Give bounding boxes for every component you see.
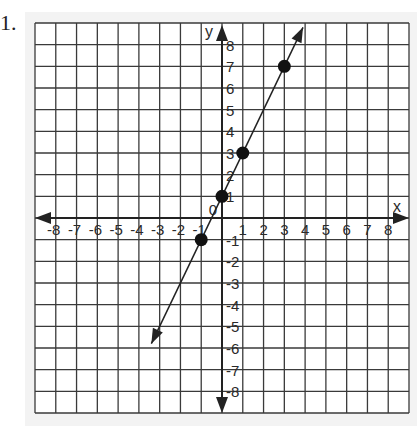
data-point bbox=[195, 233, 208, 246]
x-tick-label: 1 bbox=[239, 221, 247, 238]
y-tick-label: 3 bbox=[226, 145, 234, 162]
x-tick-label: -6 bbox=[89, 221, 102, 238]
x-tick-label: 5 bbox=[322, 221, 330, 238]
y-tick-label: 2 bbox=[226, 167, 234, 184]
data-point bbox=[236, 147, 249, 160]
x-tick-label: 4 bbox=[301, 221, 309, 238]
x-tick-label: 8 bbox=[384, 221, 392, 238]
y-tick-label: 6 bbox=[226, 80, 234, 97]
x-tick-label: 3 bbox=[280, 221, 288, 238]
x-tick-label: -7 bbox=[68, 221, 81, 238]
y-tick-label: -2 bbox=[226, 253, 239, 270]
x-tick-label: -2 bbox=[172, 221, 185, 238]
x-axis-label: x bbox=[393, 198, 401, 215]
y-tick-label: 7 bbox=[226, 58, 234, 75]
y-tick-label: -6 bbox=[226, 340, 239, 357]
y-tick-label: -4 bbox=[226, 297, 239, 314]
x-tick-label: 6 bbox=[342, 221, 350, 238]
x-tick-label: -8 bbox=[47, 221, 60, 238]
y-tick-label: -1 bbox=[226, 232, 239, 249]
x-tick-label: 7 bbox=[363, 221, 371, 238]
y-tick-label: 8 bbox=[226, 37, 234, 54]
y-tick-label: -5 bbox=[226, 318, 239, 335]
x-tick-label: -4 bbox=[130, 221, 143, 238]
y-tick-label: 4 bbox=[226, 123, 234, 140]
y-tick-label: -3 bbox=[226, 275, 239, 292]
x-tick-label: -3 bbox=[151, 221, 164, 238]
data-point bbox=[278, 60, 291, 73]
data-point bbox=[216, 190, 229, 203]
y-tick-label: -7 bbox=[226, 362, 239, 379]
coordinate-plane: -8-7-6-5-4-3-2-112345678-8-7-6-5-4-3-2-1… bbox=[0, 0, 417, 426]
x-tick-label: -5 bbox=[109, 221, 122, 238]
y-tick-label: 5 bbox=[226, 102, 234, 119]
x-tick-label: 2 bbox=[259, 221, 267, 238]
y-axis-label: y bbox=[205, 23, 213, 40]
y-tick-label: -8 bbox=[226, 383, 239, 400]
